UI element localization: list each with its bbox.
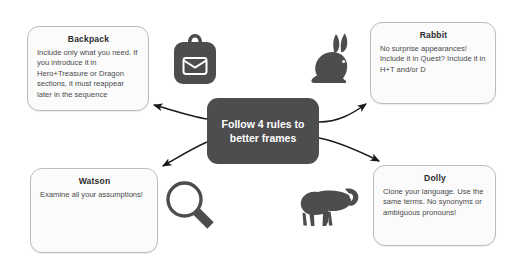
node-backpack[interactable]: Backpack Include only what you need. If … [27,26,149,111]
backpack-icon [170,33,220,85]
node-backpack-title: Backpack [37,34,140,45]
node-dolly[interactable]: Dolly Clone your language. Use the same … [373,165,496,246]
rabbit-icon [305,30,359,88]
node-backpack-body: Include only what you need. If you intro… [37,48,140,100]
node-dolly-body: Clone your language. Use the same terms.… [383,187,487,218]
node-rabbit-inner: Rabbit No surprise appearances! Include … [371,23,495,81]
node-rabbit-body: No surprise appearances! Include it in Q… [380,44,487,75]
node-dolly-inner: Dolly Clone your language. Use the same … [374,166,495,224]
arrow-center-to-watson [163,142,207,166]
node-watson-inner: Watson Examine all your assumptions! [31,169,157,206]
node-center-rules[interactable]: Follow 4 rules to better frames [207,98,319,164]
node-watson-title: Watson [40,176,149,187]
node-rabbit[interactable]: Rabbit No surprise appearances! Include … [370,22,496,104]
node-center-text: Follow 4 rules to better frames [207,117,319,145]
arrow-center-to-backpack [154,105,207,119]
node-watson[interactable]: Watson Examine all your assumptions! [30,168,158,253]
node-dolly-title: Dolly [383,173,487,184]
diagram-canvas: Backpack Include only what you need. If … [0,0,520,268]
sheep-icon [298,180,366,236]
arrow-center-to-dolly [319,138,379,161]
magnifier-icon [163,178,217,232]
node-backpack-inner: Backpack Include only what you need. If … [28,27,148,106]
node-rabbit-title: Rabbit [380,30,487,41]
arrow-center-to-rabbit [319,104,366,122]
node-watson-body: Examine all your assumptions! [40,190,149,200]
